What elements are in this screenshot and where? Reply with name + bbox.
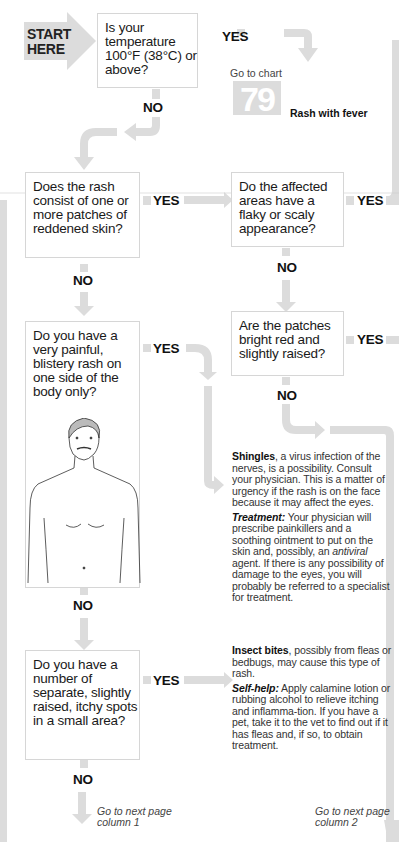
treatment-label: Treatment: [232, 511, 285, 523]
q2-no-label: NO [73, 273, 93, 288]
q2-yes-label: YES [153, 193, 179, 208]
diagnosis-shingles: Shingles, a virus infection of the nerve… [232, 451, 392, 607]
question-reddened-patches: Does the rash consist of one or more pat… [25, 172, 140, 258]
q6-no-label: NO [73, 772, 93, 787]
next-page-line-2: column 1 [97, 817, 172, 828]
q1-yes-label: YES [222, 29, 248, 44]
diagnosis-insect-bites: Insect bites, possibly from fleas or bed… [232, 645, 392, 755]
next-page-column-2[interactable]: Go to next page column 2 [315, 806, 390, 828]
q1-no-label: NO [143, 100, 163, 115]
question-text: Do you have a very painful, blistery ras… [33, 328, 121, 399]
q4-no-label: NO [277, 388, 297, 403]
question-text: Are the patches bright red and slightly … [239, 318, 331, 361]
start-here-label: START HERE [27, 27, 71, 57]
question-temperature: Is your temperature 100°F (38°C) or abov… [97, 13, 198, 88]
next-page-column-1[interactable]: Go to next page column 1 [97, 806, 172, 828]
question-text: Do the affected areas have a flaky or sc… [239, 179, 327, 236]
shingles-title: Shingles [232, 450, 275, 462]
male-torso-illustration [26, 418, 141, 588]
start-line-2: HERE [27, 42, 71, 57]
go-to-chart-label: Go to chart [230, 67, 282, 79]
question-itchy-spots: Do you have a number of separate, slight… [25, 650, 140, 760]
insect-bites-title: Insect bites [232, 644, 289, 656]
self-help-label: Self-help: [232, 682, 279, 694]
start-line-1: START [27, 27, 71, 42]
q6-yes-label: YES [153, 673, 179, 688]
chart-79-link[interactable]: 79 [233, 81, 281, 115]
next-page-line-2: column 2 [315, 817, 390, 828]
q3-no-label: NO [277, 260, 297, 275]
question-flaky-scaly: Do the affected areas have a flaky or sc… [231, 172, 344, 247]
question-text: Do you have a number of separate, slight… [33, 657, 137, 728]
question-bright-red-raised: Are the patches bright red and slightly … [231, 311, 344, 376]
question-text: Is your temperature 100°F (38°C) or abov… [105, 20, 197, 77]
question-painful-blistery: Do you have a very painful, blistery ras… [25, 321, 140, 588]
q3-yes-label: YES [357, 193, 383, 208]
question-text: Does the rash consist of one or more pat… [33, 179, 129, 236]
q5-yes-label: YES [153, 341, 179, 356]
q5-no-label: NO [73, 598, 93, 613]
treatment-body-2: agent. If there is any possibility of da… [232, 557, 390, 604]
chart-79-title[interactable]: Rash with fever [290, 107, 368, 119]
q4-yes-label: YES [357, 332, 383, 347]
antiviral-emphasis: antiviral [332, 545, 367, 557]
